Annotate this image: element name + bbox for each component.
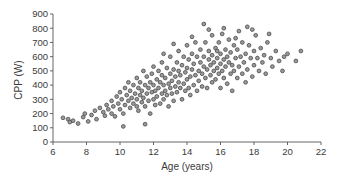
data-point: [167, 82, 171, 86]
data-point: [83, 112, 87, 116]
y-axis-title: CPP (W): [13, 60, 24, 99]
data-point: [157, 86, 161, 90]
data-point: [178, 86, 182, 90]
data-point: [172, 99, 176, 103]
data-point: [165, 93, 169, 97]
data-point: [152, 97, 156, 101]
data-point: [162, 83, 166, 87]
data-point: [204, 76, 208, 80]
scatter-chart: 0100200300400500600700800900 68101214161…: [0, 0, 342, 180]
data-point: [183, 89, 187, 93]
data-point: [163, 89, 167, 93]
data-point: [232, 69, 236, 73]
data-point: [158, 80, 162, 84]
data-point: [170, 92, 174, 96]
data-point: [261, 61, 265, 65]
data-point: [180, 97, 184, 101]
x-tick-label: 14: [182, 146, 193, 157]
data-point: [239, 55, 243, 59]
data-point: [245, 68, 249, 72]
data-point: [177, 69, 181, 73]
data-point: [286, 52, 290, 56]
data-point: [160, 92, 164, 96]
data-point: [210, 53, 214, 57]
data-point: [125, 93, 129, 97]
data-point: [235, 76, 239, 80]
data-point: [132, 102, 136, 106]
data-point: [207, 58, 211, 62]
data-point: [98, 106, 102, 110]
data-point: [195, 55, 199, 59]
data-point: [230, 63, 234, 67]
data-point: [269, 56, 273, 60]
x-axis-ticks: 6810121416182022: [50, 142, 326, 157]
data-point: [197, 69, 201, 73]
data-point: [257, 69, 261, 73]
y-axis-ticks: 0100200300400500600700800900: [32, 8, 53, 147]
data-point: [153, 103, 157, 107]
data-point: [163, 76, 167, 80]
data-point: [202, 55, 206, 59]
data-point: [205, 68, 209, 72]
data-point: [116, 102, 120, 106]
data-point: [202, 65, 206, 69]
plot-points: [61, 22, 303, 128]
data-point: [244, 52, 248, 56]
data-point: [240, 41, 244, 45]
y-tick-label: 300: [32, 94, 48, 105]
data-point: [123, 86, 127, 90]
data-point: [252, 63, 256, 67]
y-tick-label: 900: [32, 8, 48, 19]
data-point: [249, 56, 253, 60]
data-point: [175, 90, 179, 94]
data-point: [227, 61, 231, 65]
data-point: [210, 33, 214, 37]
data-point: [155, 95, 159, 99]
data-point: [138, 93, 142, 97]
data-point: [262, 53, 266, 57]
data-point: [155, 78, 159, 82]
data-point: [185, 78, 189, 82]
data-point: [95, 117, 99, 121]
data-point: [207, 49, 211, 53]
data-point: [192, 83, 196, 87]
data-point: [199, 48, 203, 52]
data-point: [215, 56, 219, 60]
data-point: [219, 62, 223, 66]
data-point: [204, 41, 208, 45]
data-point: [168, 86, 172, 90]
data-point: [145, 75, 149, 79]
data-point: [271, 65, 275, 69]
data-point: [170, 79, 174, 83]
data-point: [274, 49, 278, 53]
data-point: [135, 97, 139, 101]
data-point: [229, 51, 233, 55]
data-point: [256, 56, 260, 60]
data-point: [237, 65, 241, 69]
data-point: [145, 92, 149, 96]
data-point: [71, 119, 75, 123]
data-point: [140, 89, 144, 93]
data-point: [172, 68, 176, 72]
data-point: [232, 43, 236, 47]
data-point: [147, 86, 151, 90]
data-point: [178, 73, 182, 77]
data-point: [190, 52, 194, 56]
y-tick-label: 800: [32, 23, 48, 34]
data-point: [103, 114, 107, 118]
data-point: [173, 75, 177, 79]
data-point: [217, 72, 221, 76]
x-tick-label: 8: [84, 146, 89, 157]
x-tick-label: 6: [50, 146, 55, 157]
data-point: [182, 55, 186, 59]
x-tick-label: 20: [282, 146, 293, 157]
data-point: [113, 115, 117, 119]
data-point: [160, 73, 164, 77]
data-point: [277, 59, 281, 63]
x-tick-label: 16: [215, 146, 226, 157]
data-point: [219, 86, 223, 90]
data-point: [86, 120, 90, 124]
data-point: [215, 66, 219, 70]
y-tick-label: 600: [32, 51, 48, 62]
data-point: [252, 49, 256, 53]
